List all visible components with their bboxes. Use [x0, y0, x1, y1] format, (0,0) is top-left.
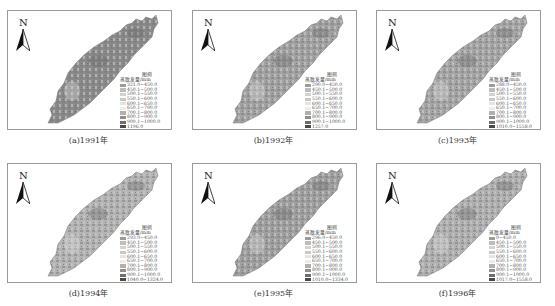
- legend-swatch: [305, 121, 311, 124]
- legend-swatch: [305, 260, 311, 263]
- legend-label: 1017.0~1558.0: [496, 278, 532, 283]
- legend-swatch: [305, 274, 311, 277]
- map-frame: N: [376, 163, 541, 283]
- legend-swatch: [489, 255, 495, 258]
- legend-swatch: [305, 116, 311, 119]
- legend-label: 1196.0: [127, 125, 143, 130]
- legend-swatch: [489, 125, 495, 128]
- legend-swatch: [489, 246, 495, 249]
- legend-swatch: [489, 241, 495, 244]
- legend-swatch: [120, 269, 126, 272]
- legend-swatch: [120, 111, 126, 114]
- legend-swatch: [305, 88, 311, 91]
- legend-swatch: [120, 116, 126, 119]
- legend-swatch: [305, 237, 311, 240]
- legend-label: 1257.0: [312, 125, 328, 130]
- legend-swatch: [305, 102, 311, 105]
- panel-caption: (d)1994年: [7, 287, 170, 298]
- legend-item: 1257.0: [305, 125, 357, 130]
- legend-swatch: [120, 88, 126, 91]
- legend-swatch: [489, 260, 495, 263]
- legend-swatch: [120, 264, 126, 267]
- legend-swatch: [120, 125, 126, 128]
- legend-swatch: [120, 93, 126, 96]
- map-frame: N: [7, 163, 172, 283]
- legend-swatch: [489, 116, 495, 119]
- panel-caption: (a)1991年: [7, 134, 170, 145]
- legend-item: 1196.0: [120, 125, 172, 130]
- panel-caption: (c)1993年: [376, 134, 539, 145]
- map-legend: 图例 蒸散发量/mm 321.0~450.0450.1~500.0500.1~5…: [120, 73, 172, 129]
- legend-swatch: [489, 107, 495, 110]
- panel-caption: (e)1995年: [192, 287, 355, 298]
- map-frame: N: [376, 10, 541, 130]
- map-legend: 图例 蒸散发量/mm 0~450.0450.1~500.0500.1~550.0…: [489, 226, 541, 282]
- map-frame: N: [7, 10, 172, 130]
- legend-swatch: [489, 98, 495, 101]
- map-legend: 图例 蒸散发量/mm 296.0~450.0450.1~500.0500.1~5…: [305, 226, 357, 282]
- legend-swatch: [305, 98, 311, 101]
- legend-swatch: [305, 255, 311, 258]
- legend-swatch: [489, 84, 495, 87]
- legend-swatch: [489, 88, 495, 91]
- map-legend: 图例 蒸散发量/mm 288.0~450.0450.1~500.0500.1~5…: [489, 73, 541, 129]
- legend-item: 1017.0~1558.0: [489, 278, 541, 283]
- legend-swatch: [120, 237, 126, 240]
- legend-label: 1010.0~1558.0: [496, 125, 532, 130]
- legend-swatch: [305, 93, 311, 96]
- map-panel-a: N: [7, 10, 177, 158]
- legend-swatch: [120, 278, 126, 281]
- legend-label: 1040.0~1324.0: [127, 278, 163, 283]
- legend-swatch: [305, 107, 311, 110]
- legend-label: 1010.0~1334.0: [312, 278, 348, 283]
- panel-caption: (f)1996年: [376, 287, 539, 298]
- legend-swatch: [489, 264, 495, 267]
- map-legend: 图例 蒸散发量/mm 290.0~450.0450.1~500.0500.1~5…: [305, 73, 357, 129]
- legend-swatch: [305, 241, 311, 244]
- legend-swatch: [120, 274, 126, 277]
- legend-swatch: [305, 84, 311, 87]
- legend-swatch: [489, 102, 495, 105]
- legend-swatch: [305, 269, 311, 272]
- legend-swatch: [489, 251, 495, 254]
- legend-swatch: [489, 278, 495, 281]
- legend-item: 1010.0~1558.0: [489, 125, 541, 130]
- legend-swatch: [489, 237, 495, 240]
- legend-item: 1010.0~1334.0: [305, 278, 357, 283]
- panel-caption: (b)1992年: [192, 134, 355, 145]
- legend-swatch: [305, 278, 311, 281]
- map-panel-c: N: [376, 10, 546, 158]
- legend-swatch: [489, 93, 495, 96]
- legend-swatch: [120, 121, 126, 124]
- legend-swatch: [305, 251, 311, 254]
- legend-swatch: [120, 260, 126, 263]
- legend-swatch: [489, 269, 495, 272]
- legend-swatch: [120, 102, 126, 105]
- legend-swatch: [120, 107, 126, 110]
- legend-swatch: [120, 246, 126, 249]
- legend-swatch: [120, 84, 126, 87]
- map-panel-d: N: [7, 163, 177, 306]
- legend-swatch: [120, 241, 126, 244]
- legend-swatch: [489, 274, 495, 277]
- legend-swatch: [305, 111, 311, 114]
- legend-swatch: [305, 246, 311, 249]
- map-frame: N: [192, 163, 357, 283]
- map-frame: N: [192, 10, 357, 130]
- legend-swatch: [120, 251, 126, 254]
- legend-item: 1040.0~1324.0: [120, 278, 172, 283]
- map-panel-f: N: [376, 163, 546, 306]
- legend-swatch: [489, 121, 495, 124]
- map-panel-e: N: [192, 163, 362, 306]
- legend-swatch: [305, 125, 311, 128]
- legend-swatch: [489, 111, 495, 114]
- legend-swatch: [305, 264, 311, 267]
- map-legend: 图例 蒸散发量/mm 293.0~450.0450.1~500.0500.1~5…: [120, 226, 172, 282]
- legend-swatch: [120, 98, 126, 101]
- legend-swatch: [120, 255, 126, 258]
- map-panel-b: N: [192, 10, 362, 158]
